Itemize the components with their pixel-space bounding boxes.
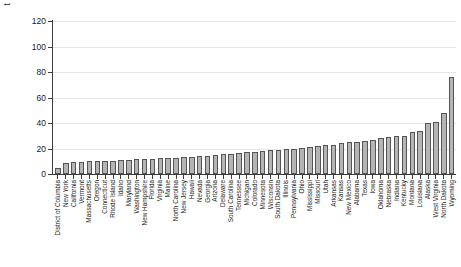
bar: [55, 168, 61, 174]
bar-column: [219, 21, 227, 174]
x-tick-mark: [443, 175, 444, 179]
y-tick-label: 20: [20, 145, 46, 154]
x-tick-mark: [160, 175, 161, 179]
bar: [79, 162, 85, 174]
x-tick-label: Hawaii: [189, 180, 195, 199]
bar-column: [259, 21, 267, 174]
bar-column: [251, 21, 259, 174]
bar: [87, 161, 93, 174]
x-tick-mark: [412, 175, 413, 179]
x-tick-label: Arkansas: [330, 180, 336, 207]
x-tick-label: New York: [63, 180, 69, 207]
bar: [331, 145, 337, 174]
y-tick-label: 120: [20, 17, 46, 26]
bar-column: [93, 21, 101, 174]
x-tick-column: [314, 175, 322, 179]
bar: [284, 149, 290, 174]
x-tick-label: District of Columbia: [55, 180, 61, 235]
x-tick-column: [448, 175, 456, 179]
bar: [402, 136, 408, 174]
x-tick-mark: [136, 175, 137, 179]
x-tick-column: [401, 175, 409, 179]
bar-column: [353, 21, 361, 174]
y-axis-line: [52, 20, 53, 175]
y-axis-title-prefix: t CO: [2, 0, 12, 6]
x-tick-column: [393, 175, 401, 179]
y-tick-mark: [48, 21, 52, 22]
x-tick-mark: [388, 175, 389, 179]
x-tick-column: [424, 175, 432, 179]
bar-column: [377, 21, 385, 174]
bar-column: [330, 21, 338, 174]
x-tick-column: [282, 175, 290, 179]
bar-column: [448, 21, 456, 174]
x-tick-label: Vermont: [78, 180, 84, 204]
x-tick-mark: [420, 175, 421, 179]
bar: [433, 122, 439, 174]
x-tick-label: Colorado: [252, 180, 258, 206]
x-tick-label: Texas: [362, 180, 368, 197]
x-tick-label: Arizona: [212, 180, 218, 202]
x-tick-mark: [294, 175, 295, 179]
x-tick-column: [251, 175, 259, 179]
x-label-column: Maryland: [125, 180, 133, 266]
x-tick-column: [330, 175, 338, 179]
x-tick-mark: [357, 175, 358, 179]
x-label-column: North Dakota: [440, 180, 448, 266]
x-tick-mark: [97, 175, 98, 179]
x-tick-label: North Dakota: [441, 180, 447, 218]
bar: [165, 158, 171, 174]
x-tick-mark: [309, 175, 310, 179]
x-tick-column: [149, 175, 157, 179]
x-label-column: Washington: [133, 180, 141, 266]
x-tick-mark: [191, 175, 192, 179]
x-tick-label: California: [70, 180, 76, 207]
x-tick-label: Wisconsin: [267, 180, 273, 209]
bar: [71, 162, 77, 174]
x-tick-label: Florida: [149, 180, 155, 200]
bar-column: [338, 21, 346, 174]
x-tick-label: Ohio: [299, 180, 305, 194]
x-tick-mark: [105, 175, 106, 179]
bar: [315, 146, 321, 174]
x-tick-column: [338, 175, 346, 179]
x-tick-label: New Hampshire: [141, 180, 147, 225]
bar: [150, 159, 156, 174]
bar-column: [141, 21, 149, 174]
x-tick-column: [322, 175, 330, 179]
y-tick-mark: [48, 98, 52, 99]
x-tick-column: [164, 175, 172, 179]
bar-column: [408, 21, 416, 174]
x-tick-label: Utah: [322, 180, 328, 194]
bar-column: [298, 21, 306, 174]
bar: [63, 163, 69, 174]
x-tick-column: [416, 175, 424, 179]
x-tick-label: Illinois: [283, 180, 289, 198]
x-tick-column: [267, 175, 275, 179]
bar: [102, 161, 108, 174]
x-tick-mark: [239, 175, 240, 179]
bar: [362, 141, 368, 174]
y-tick-label: 60: [20, 94, 46, 103]
x-tick-label: Oklahoma: [378, 180, 384, 209]
x-tick-mark: [317, 175, 318, 179]
y-tick-label-wrap: 20: [16, 145, 46, 146]
y-tick-mark: [48, 47, 52, 48]
x-tick-label: Washington: [133, 180, 139, 214]
x-tick-column: [440, 175, 448, 179]
x-tick-mark: [404, 175, 405, 179]
x-tick-label: North Carolina: [173, 180, 179, 221]
bar-column: [78, 21, 86, 174]
x-tick-mark: [73, 175, 74, 179]
x-tick-mark: [302, 175, 303, 179]
x-tick-column: [361, 175, 369, 179]
bar: [268, 150, 274, 174]
x-tick-mark: [89, 175, 90, 179]
x-tick-mark: [396, 175, 397, 179]
x-tick-column: [306, 175, 314, 179]
x-tick-column: [275, 175, 283, 179]
x-label-column: New York: [62, 180, 70, 266]
x-tick-mark: [380, 175, 381, 179]
bar: [197, 156, 203, 174]
x-tick-label: Maryland: [126, 180, 132, 206]
